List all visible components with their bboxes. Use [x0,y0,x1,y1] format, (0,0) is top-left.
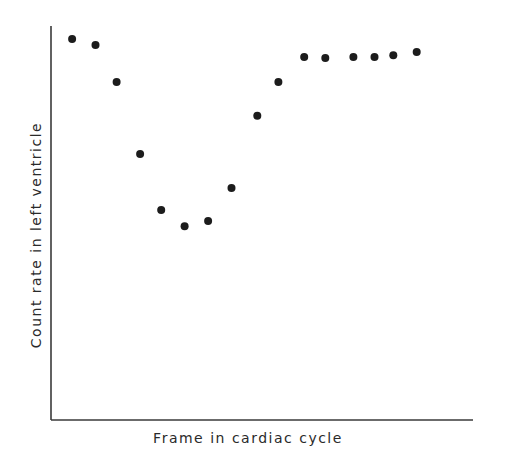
data-point [321,54,329,62]
data-point [113,78,121,86]
data-point [204,217,212,225]
data-point [413,48,421,56]
x-axis-label: Frame in cardiac cycle [153,430,343,446]
data-point [253,112,261,120]
data-point [136,150,144,158]
data-point [389,51,397,59]
data-point [349,53,357,61]
data-point [300,53,308,61]
data-point [181,222,189,230]
data-point [68,35,76,43]
chart: Frame in cardiac cycle Count rate in lef… [0,0,505,455]
data-points [68,35,421,230]
data-point [157,206,165,214]
data-point [371,53,379,61]
data-point [228,184,236,192]
data-point [92,41,100,49]
y-axis-label: Count rate in left ventricle [28,122,44,348]
data-point [274,78,282,86]
